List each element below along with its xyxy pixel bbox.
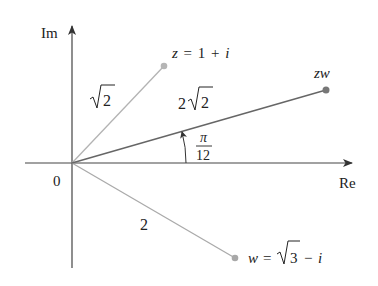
w-vector <box>72 163 235 258</box>
z-vector <box>72 66 164 163</box>
w-point <box>232 255 239 262</box>
svg-text:2: 2 <box>201 94 209 111</box>
imag-axis-label: Im <box>41 25 58 41</box>
zw-label: zw <box>313 65 330 81</box>
svg-text:3: 3 <box>290 250 298 266</box>
svg-text:12: 12 <box>196 148 210 163</box>
angle-arc <box>182 132 186 163</box>
w-modulus-label: 2 <box>140 216 148 233</box>
svg-text:2: 2 <box>103 92 111 109</box>
origin-label: 0 <box>53 173 61 189</box>
svg-text:=: = <box>263 250 271 266</box>
z-label: z = 1 + i <box>171 45 229 61</box>
svg-text:i: i <box>318 250 322 266</box>
z-modulus-label: 2 <box>90 85 115 109</box>
angle-label: π 12 <box>196 130 212 163</box>
svg-text:−: − <box>304 250 312 266</box>
svg-text:π: π <box>200 130 208 145</box>
z-point <box>161 63 168 70</box>
svg-text:2: 2 <box>178 95 186 112</box>
real-axis-label: Re <box>339 175 356 191</box>
complex-plane-diagram: Im Re 0 z = 1 + i 2 2 2 zw π 12 2 w = 3 … <box>0 0 378 286</box>
svg-text:w: w <box>248 250 258 266</box>
zw-point <box>323 87 330 94</box>
zw-modulus-label: 2 2 <box>178 87 213 112</box>
w-label: w = 3 − i <box>248 241 322 266</box>
